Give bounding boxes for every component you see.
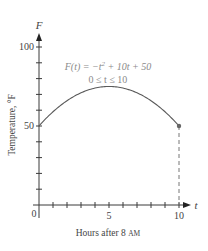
y-axis-arrow-icon — [36, 33, 42, 41]
y-axis-title: Temperature, °F — [7, 94, 17, 156]
formula-part-a: F(t) = −t — [64, 61, 102, 73]
y-tick-label-50: 50 — [24, 120, 34, 131]
temperature-chart: F t 100 50 0 5 10 Hours after 8 AM Tempe… — [0, 0, 208, 251]
x-axis-symbol: t — [194, 199, 198, 211]
formula-part-b: + 10t + 50 — [105, 61, 151, 72]
x-tick-label-5: 5 — [107, 210, 112, 221]
x-tick-label-10: 10 — [174, 210, 184, 221]
y-tick-label-100: 100 — [19, 41, 34, 52]
y-axis-symbol: F — [35, 19, 43, 31]
x-axis-title-am: AM — [128, 229, 140, 238]
x-axis-arrow-icon — [183, 202, 191, 208]
domain-text: 0 ≤ t ≤ 10 — [89, 74, 128, 85]
x-axis-title: Hours after 8 AM — [76, 228, 141, 238]
endpoint-dot — [177, 124, 181, 128]
function-curve — [39, 87, 179, 127]
x-tick-label-0: 0 — [32, 208, 37, 219]
x-axis-title-main: Hours after 8 — [76, 228, 129, 238]
formula-text: F(t) = −t2 + 10t + 50 — [64, 60, 152, 73]
